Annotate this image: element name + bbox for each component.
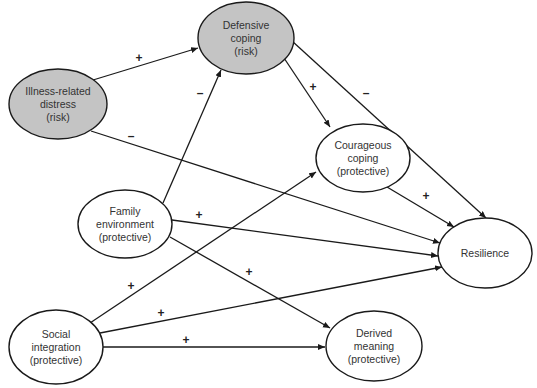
edge-sign-family-to-defensive: – [197, 86, 204, 100]
node-label-social: integration [31, 341, 80, 353]
node-label-social: (protective) [30, 354, 83, 366]
node-label-family: Family [110, 205, 142, 217]
edge-sign-family-to-derived: + [245, 265, 252, 279]
edge-labels-layer: +––+–++++++ [127, 51, 429, 347]
edge-sign-social-to-resilience: + [157, 306, 164, 320]
node-label-family: (protective) [99, 231, 152, 243]
nodes-layer: Defensivecoping(risk)Illness-relateddist… [9, 2, 532, 384]
edge-defensive-to-courageous [284, 58, 330, 127]
edge-sign-social-to-courageous: + [127, 279, 134, 293]
edge-courageous-to-resilience [387, 187, 454, 227]
node-illness: Illness-relateddistress(risk) [9, 69, 107, 139]
node-family: Familyenvironment(protective) [78, 190, 172, 258]
node-label-derived: (protective) [348, 353, 401, 365]
node-label-courageous: coping [348, 152, 379, 164]
node-label-defensive: Defensive [223, 19, 270, 31]
path-diagram: Defensivecoping(risk)Illness-relateddist… [0, 0, 537, 388]
edge-sign-illness-to-resilience: – [128, 129, 135, 143]
edge-family-to-defensive [163, 70, 221, 203]
edge-sign-social-to-derived: + [182, 333, 189, 347]
node-label-derived: meaning [354, 340, 394, 352]
node-social: Socialintegration(protective) [9, 310, 103, 384]
node-derived: Derivedmeaning(protective) [326, 311, 422, 381]
node-label-family: environment [96, 218, 154, 230]
edge-illness-to-defensive [93, 48, 198, 80]
node-label-social: Social [42, 328, 71, 340]
edge-sign-illness-to-defensive: + [135, 51, 142, 65]
node-label-derived: Derived [356, 327, 392, 339]
node-label-defensive: coping [231, 32, 262, 44]
node-label-resilience: Resilience [461, 247, 510, 259]
node-label-illness: (risk) [46, 111, 69, 123]
edge-family-to-resilience [172, 220, 438, 256]
node-resilience: Resilience [438, 218, 532, 288]
edge-sign-defensive-to-resilience: – [363, 86, 370, 100]
node-label-defensive: (risk) [234, 45, 257, 57]
node-label-courageous: Courageous [334, 139, 391, 151]
node-defensive: Defensivecoping(risk) [198, 2, 294, 74]
edge-sign-courageous-to-resilience: + [422, 189, 429, 203]
node-courageous: Courageouscoping(protective) [316, 124, 410, 192]
node-label-illness: Illness-related [25, 85, 91, 97]
edge-sign-defensive-to-courageous: + [309, 80, 316, 94]
node-label-courageous: (protective) [337, 165, 390, 177]
edge-sign-family-to-resilience: + [195, 208, 202, 222]
node-label-illness: distress [40, 98, 76, 110]
